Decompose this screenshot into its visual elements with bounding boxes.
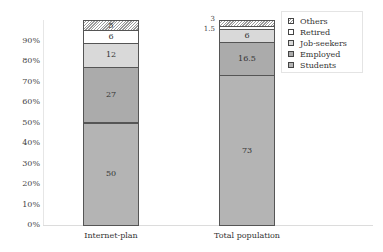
legend-swatch-icon xyxy=(288,40,294,46)
y-tick-label: 10% xyxy=(0,201,40,209)
legend-swatch-icon xyxy=(288,51,294,57)
legend-item-retired: Retired xyxy=(288,27,330,37)
legend-item-students: Students xyxy=(288,60,336,70)
bar-segment-retired: 6 xyxy=(83,30,139,43)
bar-segment-employed: 16.5 xyxy=(219,42,275,77)
x-category-label: Internet-plan xyxy=(61,231,161,240)
y-tick-label: 90% xyxy=(0,37,40,45)
legend-item-job-seekers: Job-seekers xyxy=(288,38,347,48)
legend-label: Retired xyxy=(300,28,330,37)
segment-value-label: 12 xyxy=(106,51,116,59)
legend-item-others: Others xyxy=(288,16,328,26)
segment-value-label: 50 xyxy=(106,170,116,178)
stacked-bar-chart: 0%10%20%30%40%50%60%70%80%90% 5027126573… xyxy=(0,0,383,252)
y-tick-label: 50% xyxy=(0,119,40,127)
y-tick-label: 20% xyxy=(0,180,40,188)
segment-value-label: 1.5 xyxy=(195,26,215,33)
y-tick-label: 70% xyxy=(0,78,40,86)
y-tick-label: 30% xyxy=(0,160,40,168)
segment-value-label: 16.5 xyxy=(238,55,256,63)
legend-swatch-icon xyxy=(288,29,294,35)
segment-value-label: 5 xyxy=(108,22,113,30)
bar-segment-job-seekers: 6 xyxy=(219,29,275,42)
segment-value-label: 3 xyxy=(195,16,215,23)
legend-item-employed: Employed xyxy=(288,49,340,59)
bar-segment-others xyxy=(219,20,275,27)
y-tick-label: 0% xyxy=(0,221,40,229)
segment-value-label: 27 xyxy=(106,91,116,99)
y-tick-label: 80% xyxy=(0,57,40,65)
legend-swatch-icon xyxy=(288,18,294,24)
bar-segment-employed: 27 xyxy=(83,67,139,123)
legend-label: Others xyxy=(300,17,328,26)
legend-swatch-icon xyxy=(288,62,294,68)
bar-segment-job-seekers: 12 xyxy=(83,43,139,69)
bar-segment-students: 73 xyxy=(219,75,275,226)
bar-segment-students: 50 xyxy=(83,123,139,227)
legend-label: Students xyxy=(300,61,336,70)
legend-label: Employed xyxy=(300,50,340,59)
y-tick-label: 40% xyxy=(0,139,40,147)
bar-segment-others: 5 xyxy=(83,20,139,31)
legend-label: Job-seekers xyxy=(300,39,347,48)
y-axis-line xyxy=(43,20,44,225)
legend: OthersRetiredJob-seekersEmployedStudents xyxy=(281,11,363,73)
segment-value-label: 73 xyxy=(242,147,252,155)
y-tick-label: 60% xyxy=(0,98,40,106)
segment-value-label: 6 xyxy=(244,32,249,40)
x-category-label: Total population xyxy=(197,231,297,240)
segment-value-label: 6 xyxy=(108,33,113,41)
